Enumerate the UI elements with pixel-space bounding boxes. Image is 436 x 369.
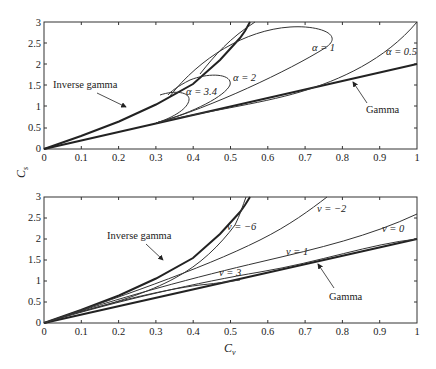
inverse-gamma-arrow-icon <box>97 93 126 107</box>
svg-text:0.2: 0.2 <box>112 326 125 337</box>
svg-text:0.7: 0.7 <box>299 326 312 337</box>
svg-text:0.7: 0.7 <box>299 152 312 163</box>
x-axis-label: C v <box>224 341 236 357</box>
svg-text:0: 0 <box>36 143 41 154</box>
svg-text:0.4: 0.4 <box>187 152 201 163</box>
svg-text:0.5: 0.5 <box>28 296 41 307</box>
nu-0-label: ν = 0 <box>382 223 405 234</box>
svg-text:s: s <box>21 167 30 170</box>
inverse-gamma-label: Inverse gamma <box>107 230 172 241</box>
svg-text:0.5: 0.5 <box>224 152 237 163</box>
svg-text:0.3: 0.3 <box>149 326 162 337</box>
svg-text:0.6: 0.6 <box>261 326 274 337</box>
svg-text:0.9: 0.9 <box>373 326 386 337</box>
figure: 00.10.2 0.30.40.5 0.60.70.8 0.91 00.51 1… <box>0 0 436 369</box>
svg-text:0.9: 0.9 <box>373 152 386 163</box>
inverse-gamma-label: Inverse gamma <box>53 79 118 90</box>
bottom-y-tick-labels: 00.51 1.522.5 3 <box>28 191 41 328</box>
svg-text:0: 0 <box>41 326 46 337</box>
svg-text:1: 1 <box>36 275 41 286</box>
svg-text:1: 1 <box>36 101 41 112</box>
svg-text:0.6: 0.6 <box>261 152 274 163</box>
y-axis-label: C s <box>14 167 30 178</box>
svg-text:v: v <box>232 348 236 357</box>
nu-m2-label: ν = −2 <box>317 203 347 214</box>
nu-m2-curve <box>44 197 327 323</box>
svg-text:0: 0 <box>36 317 41 328</box>
gamma-label: Gamma <box>366 104 400 115</box>
gamma-label: Gamma <box>329 291 363 302</box>
svg-text:1: 1 <box>414 152 419 163</box>
alpha-34-label: α = 3.4 <box>186 86 218 97</box>
svg-text:0.4: 0.4 <box>187 326 201 337</box>
gamma-arrow-icon <box>353 82 367 103</box>
top-y-tick-labels: 00.51 1.522.5 3 <box>28 17 41 154</box>
gamma-curve <box>44 64 417 149</box>
bottom-x-ticks <box>44 197 417 323</box>
svg-text:0.8: 0.8 <box>336 152 349 163</box>
svg-text:1: 1 <box>414 326 419 337</box>
svg-text:2.5: 2.5 <box>28 38 41 49</box>
svg-text:2: 2 <box>36 59 41 70</box>
svg-text:1.5: 1.5 <box>28 254 41 265</box>
bottom-axes-frame <box>44 197 417 323</box>
top-chart: 00.10.2 0.30.40.5 0.60.70.8 0.91 00.51 1… <box>28 17 420 163</box>
svg-text:3: 3 <box>36 191 41 202</box>
svg-text:0.1: 0.1 <box>75 326 88 337</box>
svg-text:0.8: 0.8 <box>336 326 349 337</box>
bottom-chart: 00.10.2 0.30.40.5 0.60.70.8 0.91 00.51 1… <box>28 191 420 337</box>
nu-m6-label: ν = −6 <box>227 221 257 232</box>
svg-text:0.2: 0.2 <box>112 152 125 163</box>
svg-text:0.1: 0.1 <box>75 152 88 163</box>
gamma-arrow-icon <box>318 264 334 288</box>
alpha-2-label: α = 2 <box>233 72 257 83</box>
svg-text:1.5: 1.5 <box>28 80 41 91</box>
nu-1-label: ν = 1 <box>286 246 308 257</box>
svg-text:2.5: 2.5 <box>28 212 41 223</box>
nu-3-label: ν = 3 <box>219 267 241 278</box>
svg-text:3: 3 <box>36 17 41 28</box>
top-x-tick-labels: 00.10.2 0.30.40.5 0.60.70.8 0.91 <box>41 152 419 163</box>
alpha-1-label: α = 1 <box>312 42 335 53</box>
top-annotations: Inverse gamma α = 3.4 α = 2 α = 1 α = 0.… <box>53 42 417 115</box>
svg-text:2: 2 <box>36 233 41 244</box>
bottom-x-tick-labels: 00.10.2 0.30.40.5 0.60.70.8 0.91 <box>41 326 419 337</box>
svg-text:0: 0 <box>41 152 46 163</box>
bottom-curves <box>44 197 417 323</box>
inverse-gamma-arrow-icon <box>146 244 163 260</box>
svg-text:0.3: 0.3 <box>149 152 162 163</box>
inverse-gamma-curve <box>44 197 250 323</box>
svg-text:0.5: 0.5 <box>28 122 41 133</box>
alpha-05-label: α = 0.5 <box>386 46 417 57</box>
svg-text:0.5: 0.5 <box>224 326 237 337</box>
